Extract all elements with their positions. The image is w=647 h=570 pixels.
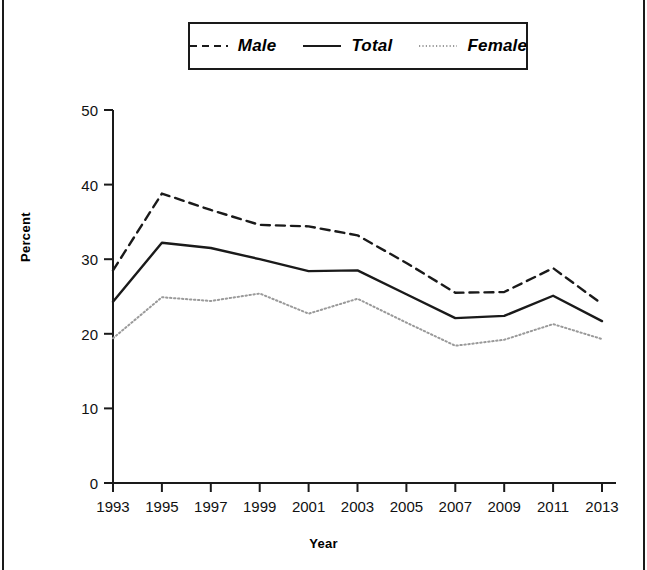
y-axis: 01020304050 (81, 102, 113, 492)
series-line-male (113, 194, 602, 304)
x-tick-label: 1997 (194, 498, 227, 515)
line-chart: 01020304050 1993199519971999200120032005… (0, 0, 647, 570)
y-axis-title: Percent (18, 212, 33, 262)
y-tick-label: 20 (81, 326, 98, 343)
x-tick-label: 2007 (439, 498, 472, 515)
x-tick-label: 1995 (145, 498, 178, 515)
x-tick-label: 2005 (390, 498, 423, 515)
x-axis-ticks: 1993199519971999200120032005200720092011… (96, 483, 618, 515)
y-tick-label: 0 (90, 475, 98, 492)
x-axis: 1993199519971999200120032005200720092011… (96, 483, 618, 515)
y-tick-label: 30 (81, 251, 98, 268)
x-tick-label: 2001 (292, 498, 325, 515)
x-axis-title: Year (0, 536, 647, 551)
x-tick-label: 2003 (341, 498, 374, 515)
x-tick-label: 2013 (585, 498, 618, 515)
y-tick-label: 50 (81, 102, 98, 119)
x-tick-label: 1999 (243, 498, 276, 515)
y-axis-ticks: 01020304050 (81, 102, 113, 492)
figure-page: Male Total Female 01020304050 19931 (0, 0, 647, 570)
x-tick-label: 2011 (537, 498, 569, 515)
x-tick-label: 2009 (488, 498, 521, 515)
x-tick-label: 1993 (96, 498, 129, 515)
series-line-total (113, 243, 602, 321)
data-series-group (113, 194, 602, 346)
y-tick-label: 10 (81, 400, 98, 417)
series-line-female (113, 294, 602, 346)
y-tick-label: 40 (81, 177, 98, 194)
